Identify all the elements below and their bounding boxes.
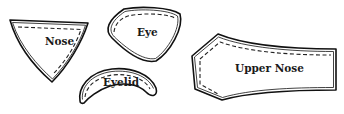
pattern-piece-upper-nose: Upper Nose (192, 34, 336, 100)
pattern-piece-eye: Eye (108, 7, 181, 61)
label-nose: Nose (45, 35, 75, 47)
pattern-piece-eyelid: Eyelid (80, 69, 157, 104)
pattern-diagram: Nose Eye Eyelid Upper Nose (0, 0, 344, 114)
label-eyelid: Eyelid (103, 76, 140, 88)
pattern-piece-nose: Nose (10, 20, 88, 82)
label-upper-nose: Upper Nose (235, 62, 304, 74)
label-eye: Eye (137, 26, 158, 38)
